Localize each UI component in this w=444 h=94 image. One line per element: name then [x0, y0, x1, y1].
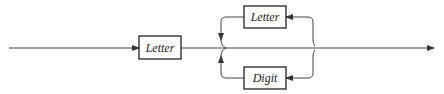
- digit-label-loop: Digit: [244, 71, 286, 85]
- letter-label-first: Letter: [139, 41, 181, 55]
- syntax-diagram: [0, 0, 444, 94]
- bottom-loop-entry: [221, 56, 244, 78]
- top-loop-return: [286, 17, 315, 46]
- bottom-loop-return: [286, 50, 315, 78]
- top-loop-entry: [221, 17, 244, 40]
- letter-label-loop: Letter: [244, 10, 286, 24]
